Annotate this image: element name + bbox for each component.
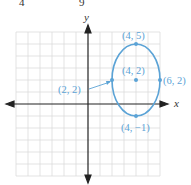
label-center: (4, 2) <box>122 65 145 77</box>
point-right <box>158 78 162 82</box>
label-top: (4, 5) <box>122 30 145 42</box>
ellipse-graph: x y (4, 5) (4, 2) (2, 2) (6, 2) (4, −1) <box>0 0 191 185</box>
label-right: (6, 2) <box>163 75 186 87</box>
point-top <box>134 42 138 46</box>
y-axis-label: y <box>83 11 89 23</box>
label-bottom: (4, −1) <box>121 122 150 134</box>
label-left: (2, 2) <box>58 84 81 96</box>
leader-arrowhead <box>106 81 111 85</box>
point-center <box>134 78 138 82</box>
x-axis <box>6 101 168 107</box>
point-bottom <box>134 114 138 118</box>
x-axis-label: x <box>173 97 179 109</box>
